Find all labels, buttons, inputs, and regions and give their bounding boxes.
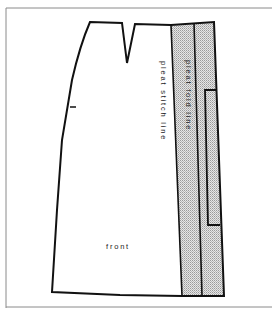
pleat-fold-line-label: pleat fold line — [184, 60, 193, 131]
outer-frame — [6, 8, 272, 308]
skirt-pattern-diagram: pleat stitch line pleat fold line front — [0, 0, 272, 314]
front-label: front — [106, 242, 130, 251]
pleat-stitch-line-label: pleat stitch line — [159, 61, 168, 141]
